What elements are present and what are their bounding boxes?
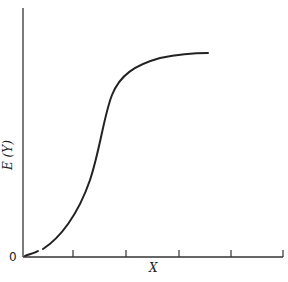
y-zero-label: 0 — [9, 250, 17, 264]
x-ticks — [73, 250, 283, 257]
sigmoid-chart: 0 X E (Y) — [0, 0, 288, 282]
x-axis-label: X — [148, 261, 158, 275]
sigmoid-curve — [25, 53, 208, 256]
y-axis-label: E (Y) — [1, 140, 15, 171]
